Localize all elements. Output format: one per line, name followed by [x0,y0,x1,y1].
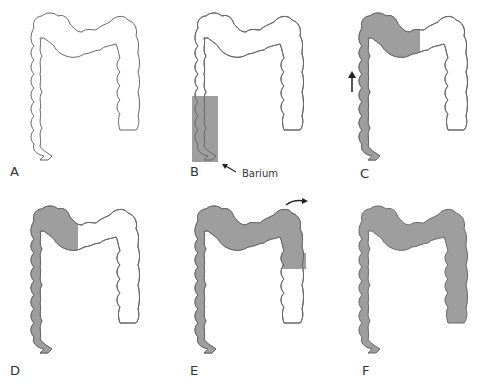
colon-diagram-rectum-filled [164,0,328,193]
panel-a: A [0,0,164,193]
colon-diagram-empty [0,0,164,193]
panel-label: D [10,363,20,378]
panel-d: D [0,193,164,386]
panel-label: A [10,164,19,179]
panel-label: B [190,164,199,179]
panel-b: B Barium [164,0,328,193]
panel-label: F [362,363,369,378]
colon-diagram-descending-filled [328,0,492,193]
panel-label: C [360,166,369,181]
colon-diagram-fully-filled [328,193,492,386]
panel-label: E [190,363,198,378]
curved-right-arrow-icon [286,201,304,206]
panel-e: E [164,193,328,386]
panel-c: C [328,0,492,193]
colon-diagram-ascending-partial [164,193,328,386]
panel-f: F [328,193,492,386]
barium-annotation: Barium [242,168,278,179]
colon-diagram-transverse-partial [0,193,164,386]
